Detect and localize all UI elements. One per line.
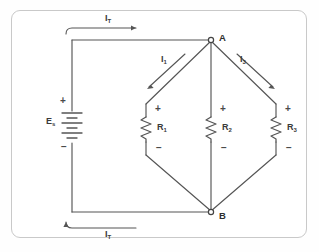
source-plus-sign: + <box>60 96 66 106</box>
current-arrow-total-top <box>66 25 136 34</box>
current-arrow-total-bottom <box>63 222 136 228</box>
r3-label: R3 <box>287 123 297 132</box>
current-label-branch1: I1 <box>161 55 167 64</box>
battery-symbol <box>62 113 82 138</box>
r2-label: R2 <box>222 123 232 132</box>
current-label-total-top: IT <box>105 14 111 23</box>
resistor-zigzag-r2 <box>206 117 216 142</box>
wire-a-to-r3 <box>211 41 276 104</box>
wire-a-to-r1 <box>146 41 211 104</box>
source-minus-sign: − <box>61 142 67 152</box>
r1-plus-sign: + <box>155 104 161 114</box>
resistor-zigzag-r3 <box>271 117 281 142</box>
node-b-circle <box>208 209 213 214</box>
r2-minus-sign: − <box>221 143 227 153</box>
r2-plus-sign: + <box>220 104 226 114</box>
current-label-branch3: I3 <box>240 55 246 64</box>
wire-r3-to-b <box>211 155 276 211</box>
r3-minus-sign: − <box>286 143 292 153</box>
resistor-zigzag-r1 <box>141 117 151 142</box>
wire-r1-to-b <box>146 155 211 211</box>
r1-label: R1 <box>157 123 167 132</box>
r1-minus-sign: − <box>156 143 162 153</box>
r3-plus-sign: + <box>285 104 291 114</box>
node-a-circle <box>208 37 213 42</box>
source-label: Es <box>46 117 55 126</box>
node-b-label: B <box>219 211 226 221</box>
current-label-total-bottom: IT <box>105 230 111 239</box>
figure-canvas: Es + − A B IT IT I1 I3 + R1 − + R2 − + R… <box>0 0 319 252</box>
node-a-label: A <box>219 33 226 43</box>
